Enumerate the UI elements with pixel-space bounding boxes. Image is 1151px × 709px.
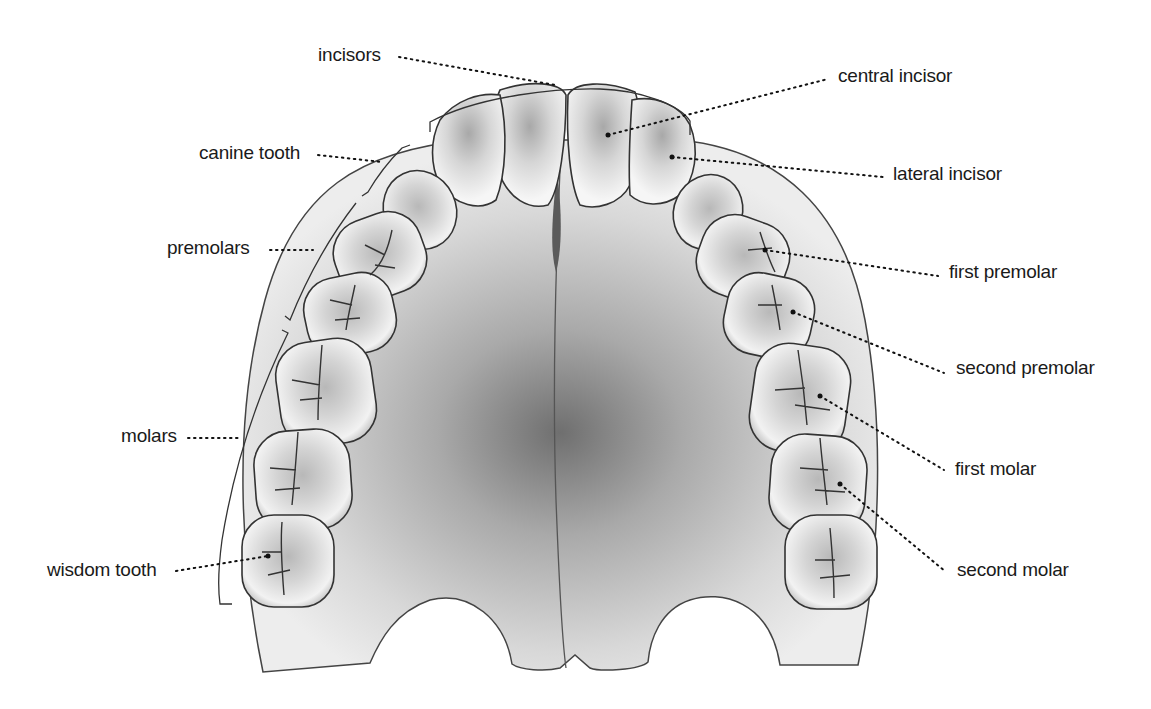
label-first-premolar: first premolar [949, 261, 1057, 283]
upper-jaw-teeth-diagram [0, 0, 1151, 709]
label-wisdom-tooth: wisdom tooth [47, 559, 157, 581]
left-wisdom-tooth [242, 515, 334, 607]
label-second-premolar: second premolar [956, 357, 1095, 379]
label-molars: molars [121, 425, 177, 447]
canine-leader [318, 155, 382, 162]
incisors-leader [399, 57, 555, 85]
label-canine-tooth: canine tooth [199, 142, 300, 164]
label-lateral-incisor: lateral incisor [893, 163, 1002, 185]
label-first-molar: first molar [955, 458, 1036, 480]
right-central-incisor [568, 84, 640, 207]
right-third-molar [785, 515, 877, 609]
label-premolars: premolars [167, 237, 250, 259]
label-incisors: incisors [318, 44, 381, 66]
label-central-incisor: central incisor [838, 65, 952, 87]
label-second-molar: second molar [957, 559, 1069, 581]
